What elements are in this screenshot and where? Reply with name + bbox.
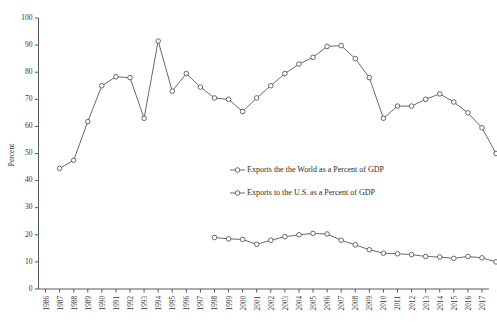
series-data-point: [395, 251, 400, 256]
x-axis-tick-label: 2004: [296, 296, 304, 311]
x-axis-tick-label: 2006: [324, 296, 332, 311]
series-data-point: [381, 116, 386, 121]
series-data-point: [409, 104, 414, 109]
legend-item-label: Exports to the U.S. as a Percent of GDP: [247, 188, 376, 197]
y-axis-tick-label: 90: [25, 40, 33, 49]
series-data-point: [85, 119, 90, 124]
x-axis-tick-label: 2003: [282, 296, 290, 311]
series-data-point: [452, 256, 457, 261]
x-axis-tick-label: 2011: [394, 296, 402, 311]
x-axis-tick-label: 1997: [197, 296, 205, 311]
y-axis-tick-label: 60: [25, 121, 33, 130]
series-data-point: [184, 71, 189, 76]
x-axis-tick-label: 1991: [113, 296, 121, 311]
series-data-point: [114, 75, 119, 80]
y-axis-tick-label: 20: [25, 230, 33, 239]
legend-item[interactable]: Exports the the World as a Percent of GD…: [230, 165, 385, 174]
series-data-point: [57, 166, 62, 171]
y-axis-tick-label: 30: [25, 202, 33, 211]
data-series-group: [57, 39, 497, 264]
series-data-point: [466, 111, 471, 116]
series-data-point: [325, 44, 330, 49]
x-axis: 1986198719881989199019911992199319941995…: [39, 289, 490, 310]
series-data-point: [170, 89, 175, 94]
series-data-point: [297, 233, 302, 238]
series-line: [60, 41, 496, 168]
series-data-point: [283, 71, 288, 76]
series-data-point: [212, 235, 217, 240]
series-data-point: [353, 56, 358, 61]
y-axis-tick-label: 100: [21, 13, 33, 22]
series-data-point: [367, 75, 372, 80]
data-series: [212, 231, 497, 264]
x-axis-tick-label: 1996: [183, 296, 191, 311]
series-data-point: [423, 97, 428, 102]
series-data-point: [297, 62, 302, 67]
series-data-point: [325, 232, 330, 237]
series-data-point: [128, 75, 133, 80]
series-data-point: [268, 238, 273, 243]
x-axis-tick-label: 2010: [380, 296, 388, 311]
series-data-point: [367, 247, 372, 252]
y-axis-tick-label: 40: [25, 175, 33, 184]
series-data-point: [353, 243, 358, 248]
legend-item-label: Exports the the World as a Percent of GD…: [247, 165, 385, 174]
series-data-point: [156, 39, 161, 44]
x-axis-tick-label: 1988: [71, 296, 79, 311]
series-data-point: [452, 100, 457, 105]
x-axis-tick-label: 1993: [141, 296, 149, 311]
series-data-point: [381, 251, 386, 256]
x-axis-tick-label: 2007: [338, 296, 346, 311]
x-axis-tick-label: 1995: [169, 296, 177, 311]
x-axis-tick-label: 2002: [268, 296, 276, 311]
series-data-point: [71, 158, 76, 163]
series-data-point: [437, 92, 442, 97]
series-data-point: [423, 254, 428, 259]
chart-container: 0102030405060708090100 19861987198819891…: [0, 0, 497, 334]
x-axis-tick-label: 1992: [127, 296, 135, 311]
series-data-point: [437, 255, 442, 260]
series-data-point: [339, 43, 344, 48]
legend-marker-open-circle-icon: [235, 191, 240, 196]
legend-item[interactable]: Exports to the U.S. as a Percent of GDP: [230, 188, 376, 197]
x-axis-tick-label: 1994: [155, 296, 163, 311]
x-axis-tick-label: 2009: [366, 296, 374, 311]
series-data-point: [466, 254, 471, 259]
x-axis-tick-label: 1998: [211, 296, 219, 311]
series-data-point: [254, 96, 259, 101]
series-data-point: [240, 237, 245, 242]
series-data-point: [339, 238, 344, 243]
x-axis-tick-label: 2000: [240, 296, 248, 311]
x-axis-tick-label: 1989: [85, 296, 93, 311]
series-data-point: [311, 231, 316, 236]
chart-legend: Exports the the World as a Percent of GD…: [230, 165, 385, 197]
x-axis-tick-label: 2005: [310, 296, 318, 311]
y-axis-tick-label: 70: [25, 94, 33, 103]
series-data-point: [198, 85, 203, 90]
line-chart: 0102030405060708090100 19861987198819891…: [0, 0, 497, 334]
series-data-point: [409, 252, 414, 257]
x-axis-tick-label: 2016: [465, 296, 473, 311]
series-data-point: [480, 125, 485, 130]
series-data-point: [254, 242, 259, 247]
series-data-point: [283, 234, 288, 239]
series-data-point: [212, 96, 217, 101]
series-data-point: [100, 83, 105, 88]
series-data-point: [311, 55, 316, 60]
series-data-point: [268, 83, 273, 88]
y-axis-tick-label: 80: [25, 67, 33, 76]
y-axis-tick-label: 10: [25, 257, 33, 266]
x-axis-tick-label: 2014: [437, 296, 445, 311]
x-axis-tick-label: 1986: [43, 296, 51, 311]
x-axis-tick-label: 1987: [57, 296, 65, 311]
series-data-point: [226, 237, 231, 242]
x-axis-tick-label: 2017: [479, 296, 487, 311]
legend-marker-open-circle-icon: [235, 168, 240, 173]
y-axis: 0102030405060708090100: [21, 13, 38, 293]
x-axis-tick-label: 1990: [99, 296, 107, 311]
series-data-point: [395, 104, 400, 109]
series-data-point: [480, 256, 485, 261]
series-data-point: [226, 97, 231, 102]
x-axis-tick-label: 2001: [254, 296, 262, 311]
series-data-point: [240, 109, 245, 114]
